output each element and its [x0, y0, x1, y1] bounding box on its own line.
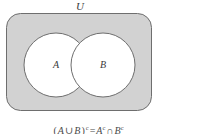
caption-lhs-set-a: A — [58, 125, 64, 134]
intersect-symbol: ∩ — [105, 125, 114, 134]
union-symbol: ∪ — [64, 125, 74, 134]
set-b-label: B — [93, 59, 113, 70]
venn-diagram-figure: U A B (A∪B)c=Ac∩Bc — [0, 0, 197, 134]
figure-caption: (A∪B)c=Ac∩Bc — [0, 124, 176, 134]
complement-mark-rhs-b: c — [121, 124, 124, 131]
set-a-label: A — [46, 59, 66, 70]
